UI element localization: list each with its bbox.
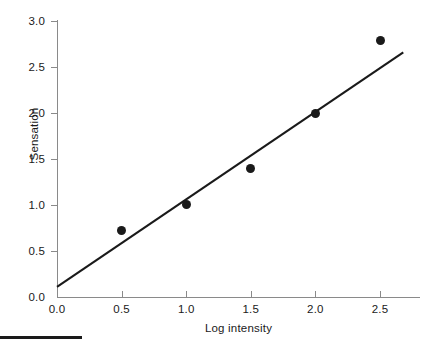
fit-line-segment: [57, 52, 403, 287]
data-point: [311, 109, 320, 118]
figure-container: 0.00.51.01.52.02.53.0 0.00.51.01.52.02.5…: [0, 0, 428, 350]
data-point: [182, 200, 191, 209]
data-point: [376, 36, 385, 45]
footer-rule: [0, 336, 82, 339]
fit-line: [0, 0, 428, 350]
data-point: [246, 164, 255, 173]
